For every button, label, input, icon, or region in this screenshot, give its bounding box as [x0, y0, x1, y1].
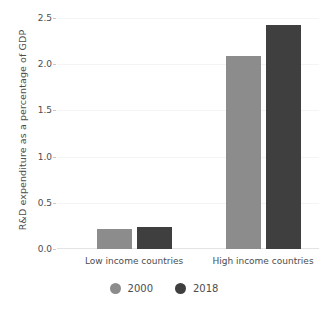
- bar: [226, 56, 261, 249]
- x-axis-category-label: Low income countries: [85, 256, 183, 266]
- legend: 20002018: [0, 283, 328, 294]
- plot-area: [57, 18, 319, 249]
- x-axis-category-label: High income countries: [212, 256, 313, 266]
- legend-swatch-circle-icon: [175, 283, 186, 294]
- y-axis-tick-mark: [53, 157, 56, 158]
- y-axis-tick-mark: [53, 18, 56, 19]
- y-axis-tick-mark: [53, 110, 56, 111]
- y-axis-tick-marks: [22, 18, 58, 249]
- bar-chart: R&D expenditure as a percentage of GDP 0…: [0, 0, 328, 310]
- bar: [97, 229, 132, 249]
- bar: [266, 25, 301, 249]
- gridline: [57, 18, 319, 19]
- legend-label: 2018: [193, 283, 218, 294]
- legend-label: 2000: [128, 283, 153, 294]
- y-axis-tick-mark: [53, 64, 56, 65]
- y-axis-tick-mark: [53, 203, 56, 204]
- y-axis-tick-mark: [53, 249, 56, 250]
- legend-item[interactable]: 2000: [110, 283, 153, 294]
- legend-item[interactable]: 2018: [175, 283, 218, 294]
- legend-swatch-circle-icon: [110, 283, 121, 294]
- bar: [137, 227, 172, 249]
